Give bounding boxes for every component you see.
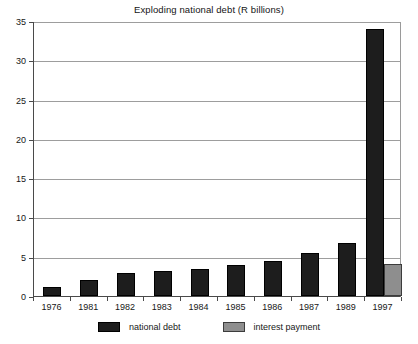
bar-group [292,22,329,296]
bars-layer [34,22,400,296]
bar-group [71,22,108,296]
bar-national-debt[interactable] [117,273,135,296]
y-tick-label: 5 [21,253,26,263]
bar-national-debt[interactable] [366,29,384,296]
bar-national-debt[interactable] [227,265,245,296]
bar-group [365,22,402,296]
x-tick-label: 1976 [41,302,61,312]
bar-group [218,22,255,296]
bar-national-debt[interactable] [154,271,172,296]
bar-national-debt[interactable] [301,253,319,296]
legend-item[interactable]: national debt [98,322,181,332]
bar-national-debt[interactable] [338,243,356,296]
x-tick-label: 1989 [336,302,356,312]
y-tick-label: 10 [16,213,26,223]
legend-item[interactable]: interest payment [223,322,321,332]
x-axis: 1976198119821983198419851986198719891997 [33,297,401,317]
chart-title: Exploding national debt (R billions) [0,4,418,15]
y-tick-label: 20 [16,135,26,145]
y-tick-label: 25 [16,96,26,106]
x-tick-label: 1997 [373,302,393,312]
legend-swatch-debt [98,322,120,332]
chart-legend: national debtinterest payment [0,322,418,332]
bar-national-debt[interactable] [264,261,282,296]
legend-label: national debt [129,322,181,332]
bar-interest-payment[interactable] [384,264,402,296]
y-axis: 05101520253035 [0,22,33,297]
x-tick-mark [70,297,71,301]
bar-group [255,22,292,296]
legend-label: interest payment [254,322,321,332]
x-tick-label: 1983 [152,302,172,312]
x-tick-mark [217,297,218,301]
x-tick-label: 1982 [115,302,135,312]
bar-group [144,22,181,296]
x-tick-mark [291,297,292,301]
y-tick-label: 0 [21,292,26,302]
x-tick-mark [401,297,402,301]
bar-group [34,22,71,296]
y-tick-label: 35 [16,17,26,27]
plot-area [33,22,401,297]
bar-group [181,22,218,296]
bar-group [328,22,365,296]
bar-national-debt[interactable] [191,269,209,297]
x-tick-label: 1986 [262,302,282,312]
bar-group [108,22,145,296]
x-tick-label: 1985 [225,302,245,312]
x-tick-mark [143,297,144,301]
x-tick-mark [180,297,181,301]
y-tick-label: 30 [16,56,26,66]
x-tick-mark [364,297,365,301]
x-tick-mark [254,297,255,301]
bar-national-debt[interactable] [80,280,98,297]
bar-national-debt[interactable] [43,287,61,296]
x-tick-label: 1987 [299,302,319,312]
chart-container: Exploding national debt (R billions) 051… [0,0,418,344]
x-tick-mark [33,297,34,301]
legend-swatch-interest [223,322,245,332]
x-tick-mark [107,297,108,301]
x-tick-mark [327,297,328,301]
x-tick-label: 1981 [78,302,98,312]
y-tick-label: 15 [16,174,26,184]
x-tick-label: 1984 [189,302,209,312]
